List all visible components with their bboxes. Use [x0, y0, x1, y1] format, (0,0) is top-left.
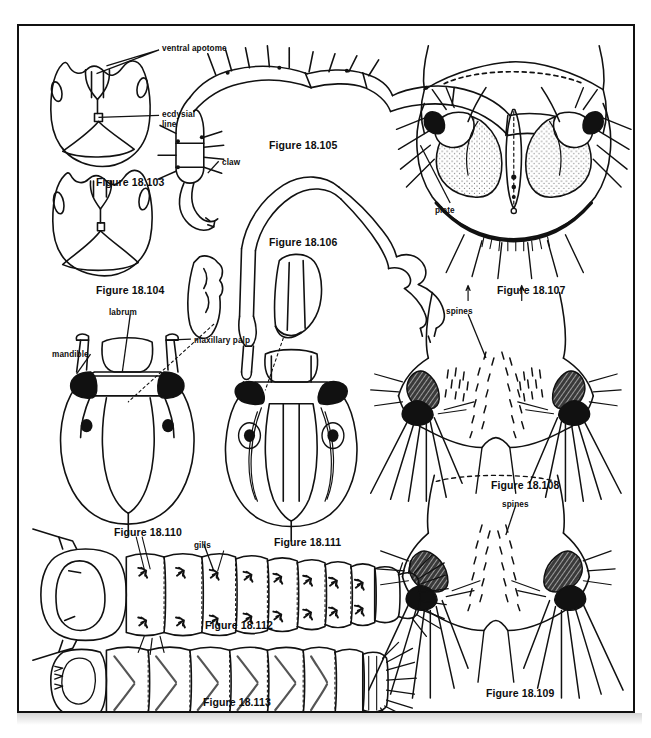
figure-caption-18-104: Figure 18.104	[96, 284, 164, 296]
figure-caption-18-111: Figure 18.111	[274, 536, 341, 548]
figure-plate: Figure 18.103 Figure 18.104 Figure 18.10…	[17, 24, 635, 713]
figure-caption-18-105: Figure 18.105	[269, 139, 337, 151]
figure-caption-18-106: Figure 18.106	[269, 236, 337, 248]
figure-caption-18-113: Figure 18.113	[203, 696, 271, 708]
figure-caption-18-112: Figure 18.112	[205, 619, 273, 631]
plate-drawing	[19, 26, 633, 711]
part-label-labrum: labrum	[109, 308, 137, 317]
part-label-ecdysial-line: line	[162, 120, 177, 129]
figure-caption-18-107: Figure 18.107	[497, 284, 565, 296]
figure-caption-18-103: Figure 18.103	[96, 176, 164, 188]
part-label-gills: gills	[194, 541, 211, 550]
part-label-claw: claw	[222, 158, 240, 167]
part-label-maxillary-palp: maxillary palp	[194, 336, 250, 345]
running-head	[255, 0, 405, 7]
figure-caption-18-108: Figure 18.108	[491, 479, 559, 491]
part-label-ventral-apotome: ventral apotome	[162, 44, 227, 53]
figure-caption-18-109: Figure 18.109	[486, 687, 554, 699]
figure-caption-18-110: Figure 18.110	[114, 526, 182, 538]
part-label-plate: plate	[435, 206, 455, 215]
part-label-mandible: mandible	[52, 350, 89, 359]
scan-edge-shadow	[17, 713, 642, 725]
part-label-ecdysial: ecdysial	[162, 110, 195, 119]
part-label-spines-108: spines	[446, 307, 473, 316]
part-label-spines-109: spines	[502, 500, 529, 509]
